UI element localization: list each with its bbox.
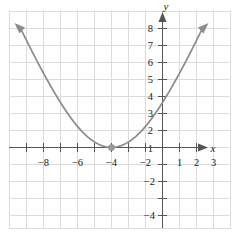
x-tick-label-neg2: −2	[140, 157, 151, 168]
y-tick-label-6: 6	[148, 57, 153, 68]
x-tick-label-neg6: −6	[72, 157, 83, 168]
x-tick-label-3: 3	[211, 157, 216, 168]
y-tick-label-7: 7	[148, 40, 153, 51]
x-tick-label-neg4: −4	[106, 157, 118, 168]
x-tick-label-1: 1	[177, 157, 182, 168]
y-axis	[158, 12, 167, 228]
y-tick-label-5: 5	[148, 74, 153, 85]
y-tick-label-2: 2	[148, 125, 153, 136]
y-tick-label-1: 1	[148, 143, 153, 154]
grid-lines	[9, 10, 231, 229]
y-tick-label-neg4: −4	[144, 210, 156, 221]
x-tick-label-2: 2	[194, 157, 199, 168]
y-tick-label-3: 3	[148, 108, 153, 119]
y-axis-label: y	[163, 0, 169, 12]
x-tick-labels: −8 −6 −4 −2 1 2 3	[38, 157, 216, 168]
graph-figure: x y −8 −6 −4 −2 1 2 3 8 7 6 5 4 3 2 1 −2…	[0, 0, 240, 235]
y-tick-label-4: 4	[148, 91, 154, 102]
x-tick-label-neg8: −8	[38, 157, 49, 168]
vertex-point-marker	[108, 144, 114, 150]
x-axis-label: x	[210, 142, 216, 154]
y-tick-label-8: 8	[148, 23, 153, 34]
coordinate-plane: x y −8 −6 −4 −2 1 2 3 8 7 6 5 4 3 2 1 −2…	[0, 0, 240, 235]
y-tick-label-neg2: −2	[144, 176, 155, 187]
